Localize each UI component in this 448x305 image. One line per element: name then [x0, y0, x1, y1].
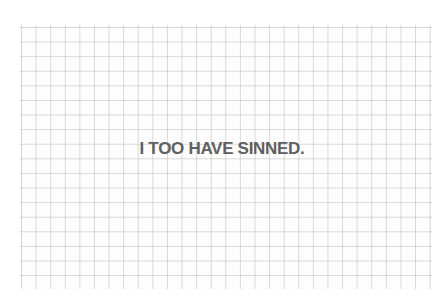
- printed-message: I TOO HAVE SINNED.: [0, 139, 446, 159]
